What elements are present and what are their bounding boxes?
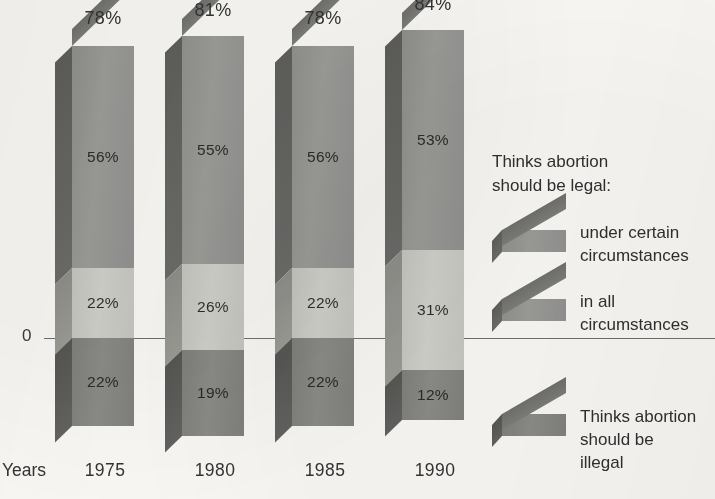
- swatch-top-face: [502, 230, 566, 246]
- segment-side-face: [165, 350, 182, 436]
- segment-value-label: 56%: [87, 148, 119, 166]
- chart-legend: Thinks abortion should be legal: under c…: [492, 150, 707, 474]
- bar-segment-illegal: 12%: [402, 370, 464, 420]
- legend-item-illegal[interactable]: Thinks abortion should be illegal: [492, 398, 707, 474]
- legend-item-label-line1: in all: [580, 290, 689, 313]
- segment-side-face: [275, 46, 292, 268]
- bar-segment-in-all: 26%: [182, 264, 244, 350]
- segment-front-face: 56%: [72, 46, 134, 268]
- bar-segment-illegal: 22%: [72, 338, 134, 426]
- swatch-top-face: [502, 414, 566, 430]
- x-axis-tick-1985: 1985: [265, 460, 385, 481]
- x-axis-tick-1990: 1990: [375, 460, 495, 481]
- legend-item-label: Thinks abortion should be illegal: [580, 398, 696, 474]
- segment-front-face: 26%: [182, 264, 244, 350]
- segment-front-face: 53%: [402, 30, 464, 250]
- segment-side-face: [385, 250, 402, 370]
- bar-top-lid: [72, 29, 134, 46]
- swatch-side-face: [492, 299, 502, 321]
- legend-item-in-all[interactable]: in all circumstances: [492, 283, 707, 336]
- segment-value-label: 22%: [87, 373, 119, 391]
- bar-segment-under-certain: 56%: [72, 46, 134, 268]
- segment-front-face: 55%: [182, 36, 244, 264]
- segment-front-face: 19%: [182, 350, 244, 436]
- bar-top-lid: [292, 29, 354, 46]
- segment-value-label: 31%: [417, 301, 449, 319]
- legend-title-line2: should be legal:: [492, 174, 707, 198]
- segment-value-label: 12%: [417, 386, 449, 404]
- legend-title: Thinks abortion should be legal:: [492, 150, 707, 198]
- bar-top-lid: [182, 19, 244, 36]
- swatch-side-face: [492, 230, 502, 252]
- legend-item-label-line3: illegal: [580, 451, 696, 474]
- segment-side-face: [55, 338, 72, 426]
- segment-front-face: 22%: [292, 338, 354, 426]
- segment-side-face: [165, 264, 182, 350]
- bar-segment-under-certain: 55%: [182, 36, 244, 264]
- segment-value-label: 19%: [197, 384, 229, 402]
- legend-item-label-line2: circumstances: [580, 313, 689, 336]
- legend-item-label-line1: Thinks abortion: [580, 405, 696, 428]
- bar-total-label: 78%: [43, 8, 163, 29]
- legend-item-label-line2: circumstances: [580, 244, 689, 267]
- segment-front-face: 22%: [292, 268, 354, 338]
- x-axis-tick-1980: 1980: [155, 460, 275, 481]
- bar-1990[interactable]: 53% 31% 12%: [402, 30, 464, 420]
- segment-side-face: [55, 268, 72, 338]
- legend-item-under-certain[interactable]: under certain circumstances: [492, 214, 707, 267]
- segment-front-face: 22%: [72, 338, 134, 426]
- segment-value-label: 22%: [307, 294, 339, 312]
- bar-1985[interactable]: 56% 22% 22%: [292, 46, 354, 426]
- bar-total-label: 81%: [153, 0, 273, 21]
- bar-total-label: 84%: [373, 0, 493, 15]
- segment-front-face: 56%: [292, 46, 354, 268]
- legend-item-label-line1: under certain: [580, 221, 689, 244]
- bar-total-label: 78%: [263, 8, 383, 29]
- segment-front-face: 22%: [72, 268, 134, 338]
- segment-value-label: 22%: [87, 294, 119, 312]
- segment-value-label: 53%: [417, 131, 449, 149]
- segment-side-face: [385, 30, 402, 250]
- bar-segment-in-all: 22%: [292, 268, 354, 338]
- segment-side-face: [275, 268, 292, 338]
- segment-side-face: [55, 46, 72, 268]
- segment-value-label: 56%: [307, 148, 339, 166]
- legend-item-label: in all circumstances: [580, 283, 689, 336]
- legend-swatch-icon: [492, 398, 566, 436]
- bar-1975[interactable]: 56% 22% 22%: [72, 46, 134, 426]
- legend-swatch-icon: [492, 283, 566, 321]
- bar-1980[interactable]: 55% 26% 19%: [182, 36, 244, 436]
- segment-side-face: [275, 338, 292, 426]
- legend-title-line1: Thinks abortion: [492, 150, 707, 174]
- bar-segment-in-all: 31%: [402, 250, 464, 370]
- segment-value-label: 26%: [197, 298, 229, 316]
- legend-swatch-icon: [492, 214, 566, 252]
- segment-side-face: [385, 370, 402, 420]
- chart-page: 0 56% 22% 22%: [0, 0, 715, 499]
- segment-side-face: [165, 36, 182, 264]
- segment-value-label: 22%: [307, 373, 339, 391]
- segment-front-face: 31%: [402, 250, 464, 370]
- bar-segment-under-certain: 56%: [292, 46, 354, 268]
- bar-segment-in-all: 22%: [72, 268, 134, 338]
- legend-item-label-line2: should be: [580, 428, 696, 451]
- segment-front-face: 12%: [402, 370, 464, 420]
- segment-value-label: 55%: [197, 141, 229, 159]
- legend-item-label: under certain circumstances: [580, 214, 689, 267]
- bar-segment-under-certain: 53%: [402, 30, 464, 250]
- x-axis-tick-1975: 1975: [45, 460, 165, 481]
- swatch-top-face: [502, 299, 566, 315]
- swatch-side-face: [492, 414, 502, 436]
- bar-segment-illegal: 19%: [182, 350, 244, 436]
- x-axis-title: Years: [2, 460, 46, 481]
- bar-top-lid: [402, 13, 464, 30]
- bar-segment-illegal: 22%: [292, 338, 354, 426]
